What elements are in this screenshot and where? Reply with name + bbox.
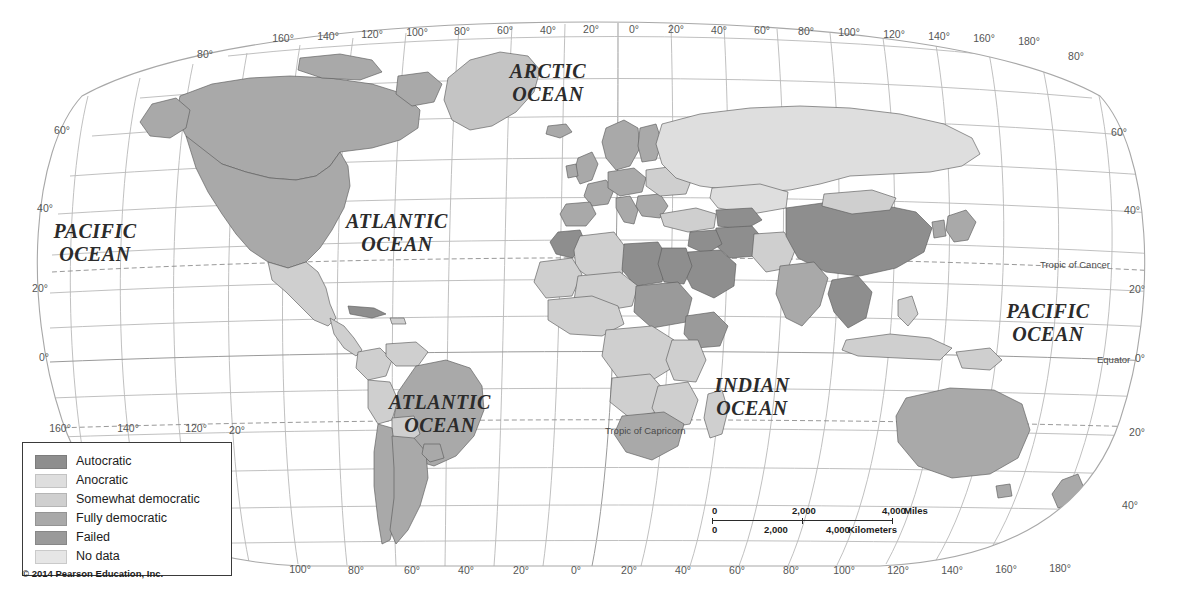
top-longitude-label: 120° bbox=[361, 28, 383, 40]
bottom-longitude-label: 140° bbox=[941, 564, 963, 576]
arctic-ocean-line1: ARCTIC bbox=[508, 60, 587, 82]
indian-ocean-line2: OCEAN bbox=[716, 397, 788, 419]
country-india bbox=[776, 262, 828, 326]
top-longitude-label: 60° bbox=[754, 24, 770, 36]
scale-miles-unit: Miles bbox=[904, 505, 928, 516]
country-iceland bbox=[546, 124, 572, 138]
legend-item-list: AutocraticAnocraticSomewhat democraticFu… bbox=[35, 452, 221, 566]
scale-kilometers-labels: 02,0004,000Kilometers bbox=[712, 524, 912, 537]
bottom-longitude-label: 100° bbox=[289, 563, 311, 575]
legend-swatch bbox=[35, 531, 67, 545]
bottom-longitude-label: 20° bbox=[621, 564, 637, 576]
left-latitude-label: 20° bbox=[229, 424, 245, 436]
left-longitude-label: 140° bbox=[117, 422, 139, 434]
legend-swatch bbox=[35, 550, 67, 564]
country-tasmania bbox=[996, 484, 1012, 498]
left-latitude-label: 0° bbox=[39, 351, 49, 363]
right-latitude-label: 20° bbox=[1129, 426, 1145, 438]
top-longitude-label: 40° bbox=[540, 24, 556, 36]
country-chad-sudan bbox=[634, 282, 692, 328]
canadian-arctic-islands bbox=[298, 54, 382, 80]
map-legend: AutocraticAnocraticSomewhat democraticFu… bbox=[22, 442, 232, 576]
pacific-ocean-left-line2: OCEAN bbox=[59, 243, 131, 265]
bottom-longitude-label: 60° bbox=[404, 564, 420, 576]
country-ireland bbox=[566, 164, 578, 178]
bottom-longitude-label: 80° bbox=[783, 564, 799, 576]
legend-item[interactable]: Autocratic bbox=[35, 452, 221, 471]
top-longitude-label: 80° bbox=[798, 25, 814, 37]
country-indonesia bbox=[842, 334, 952, 360]
country-kenya-tanzania bbox=[666, 340, 706, 382]
country-egypt bbox=[658, 248, 692, 284]
right-latitude-label: 20° bbox=[1129, 283, 1145, 295]
scale-bar: 02,0004,000Miles 02,0004,000Kilometers bbox=[712, 505, 912, 537]
top-longitude-label: 120° bbox=[883, 28, 905, 40]
country-saudi-arabia bbox=[682, 250, 736, 298]
left-longitude-label: 120° bbox=[185, 422, 207, 434]
country-australia bbox=[896, 388, 1030, 478]
legend-label: Fully democratic bbox=[76, 512, 167, 525]
indian-ocean-line1: INDIAN bbox=[713, 374, 790, 396]
legend-swatch bbox=[35, 474, 67, 488]
legend-swatch bbox=[35, 455, 67, 469]
country-venezuela bbox=[386, 342, 428, 366]
country-greece-turkey bbox=[660, 208, 716, 232]
bottom-longitude-label: 180° bbox=[1049, 562, 1071, 574]
left-longitude-label: 160° bbox=[49, 422, 71, 434]
legend-swatch bbox=[35, 512, 67, 526]
country-southeast-asia bbox=[828, 276, 872, 328]
tropic-of-cancer-label: Tropic of Cancer bbox=[1040, 259, 1110, 270]
right-latitude-label: 0° bbox=[1135, 352, 1145, 364]
country-italy bbox=[616, 196, 638, 224]
country-germany-poland bbox=[608, 168, 646, 196]
bottom-longitude-label: 160° bbox=[995, 563, 1017, 575]
right-latitude-label: 40° bbox=[1124, 204, 1140, 216]
right-latitude-label: 80° bbox=[1068, 50, 1084, 62]
left-latitude-label: 80° bbox=[197, 48, 213, 60]
left-latitude-label: 20° bbox=[32, 282, 48, 294]
country-south-africa bbox=[614, 412, 684, 460]
legend-item[interactable]: Somewhat democratic bbox=[35, 490, 221, 509]
atlantic-ocean-south-line2: OCEAN bbox=[404, 414, 476, 436]
legend-item[interactable]: Failed bbox=[35, 528, 221, 547]
bottom-longitude-label: 40° bbox=[458, 564, 474, 576]
copyright-notice: © 2014 Pearson Education, Inc. bbox=[22, 568, 163, 579]
bottom-longitude-label: 100° bbox=[833, 564, 855, 576]
legend-item[interactable]: Fully democratic bbox=[35, 509, 221, 528]
bottom-longitude-label: 40° bbox=[675, 564, 691, 576]
tropic-of-capricorn-label: Tropic of Capricorn bbox=[605, 425, 685, 436]
atlantic-ocean-north-line2: OCEAN bbox=[361, 233, 433, 255]
top-longitude-label: 160° bbox=[973, 32, 995, 44]
country-korea bbox=[932, 220, 946, 238]
left-latitude-label: 40° bbox=[37, 202, 53, 214]
top-longitude-label: 80° bbox=[454, 25, 470, 37]
scale-kilometers-unit: Kilometers bbox=[848, 524, 897, 535]
top-longitude-label: 160° bbox=[272, 32, 294, 44]
country-united-kingdom bbox=[574, 152, 598, 184]
top-longitude-label: 140° bbox=[317, 30, 339, 42]
legend-label: Somewhat democratic bbox=[76, 493, 200, 506]
arctic-ocean-line2: OCEAN bbox=[512, 83, 584, 105]
legend-item[interactable]: No data bbox=[35, 547, 221, 566]
legend-item[interactable]: Anocratic bbox=[35, 471, 221, 490]
bottom-longitude-label: 80° bbox=[348, 564, 364, 576]
cuba bbox=[348, 306, 386, 318]
bottom-longitude-label: 60° bbox=[729, 564, 745, 576]
country-western-sahara-mauritania bbox=[534, 258, 582, 298]
bottom-longitude-label: 0° bbox=[571, 564, 581, 576]
central-america bbox=[330, 318, 362, 356]
top-longitude-label: 60° bbox=[497, 24, 513, 36]
scale-kilometers-tick: 4,000 bbox=[826, 524, 850, 535]
country-japan bbox=[946, 210, 976, 242]
legend-label: Anocratic bbox=[76, 474, 128, 487]
scale-miles-tick: 2,000 bbox=[792, 505, 816, 516]
top-longitude-label: 20° bbox=[668, 23, 684, 35]
top-longitude-label: 20° bbox=[583, 23, 599, 35]
right-latitude-label: 60° bbox=[1111, 126, 1127, 138]
top-longitude-label: 140° bbox=[928, 30, 950, 42]
scale-kilometers-tick: 2,000 bbox=[764, 524, 788, 535]
hispaniola bbox=[390, 318, 406, 324]
top-longitude-label: 100° bbox=[838, 26, 860, 38]
atlantic-ocean-north-line1: ATLANTIC bbox=[344, 210, 448, 232]
left-latitude-label: 60° bbox=[54, 124, 70, 136]
